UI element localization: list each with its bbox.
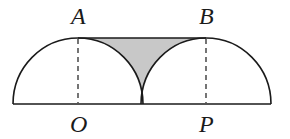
diagram-canvas: A B O P bbox=[0, 0, 290, 139]
label-p: P bbox=[198, 111, 214, 137]
semicircles-diagram: A B O P bbox=[0, 0, 290, 139]
label-o: O bbox=[70, 111, 87, 137]
label-a: A bbox=[69, 3, 86, 29]
label-b: B bbox=[199, 3, 214, 29]
